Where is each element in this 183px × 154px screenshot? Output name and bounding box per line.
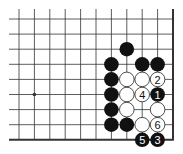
move-number-label: 6 [155,119,161,131]
black-stone [120,117,135,132]
white-stone [120,87,135,102]
black-stone-disc [104,72,119,87]
black-stone [150,57,165,72]
white-stone-disc [120,72,135,87]
move-number-label: 3 [155,134,161,146]
star-point [33,93,37,97]
black-stone-disc [104,87,119,102]
white-stone-disc [150,102,165,117]
move-number-label: 5 [139,134,145,146]
white-stone-disc [135,117,150,132]
black-stone [135,57,150,72]
white-stone [120,102,135,117]
white-stone-disc [120,102,135,117]
black-stone [120,42,135,57]
black-stone [104,72,119,87]
black-stone [104,57,119,72]
white-stone [150,102,165,117]
white-stone-4: 4 [135,87,150,102]
stones: 241653 [104,42,165,147]
white-stone-2: 2 [150,72,165,87]
star-points [33,93,37,97]
white-stone-disc [120,87,135,102]
black-stone-3: 3 [150,133,165,148]
white-stone [135,72,150,87]
black-stone-disc [135,57,150,72]
black-stone [104,102,119,117]
black-stone-disc [120,42,135,57]
white-stone-6: 6 [150,117,165,132]
black-stone-disc [150,57,165,72]
black-stone-disc [104,117,119,132]
black-stone-1: 1 [150,87,165,102]
move-number-label: 2 [155,74,161,86]
black-stone-disc [120,117,135,132]
go-board: 241653 [0,0,183,154]
white-stone [120,72,135,87]
move-number-label: 1 [155,89,161,101]
white-stone [135,117,150,132]
grid-lines [9,9,174,140]
black-stone-5: 5 [135,133,150,148]
black-stone-disc [104,102,119,117]
move-number-label: 4 [139,89,145,101]
white-stone-disc [135,72,150,87]
black-stone [104,117,119,132]
black-stone-disc [104,57,119,72]
black-stone [104,87,119,102]
